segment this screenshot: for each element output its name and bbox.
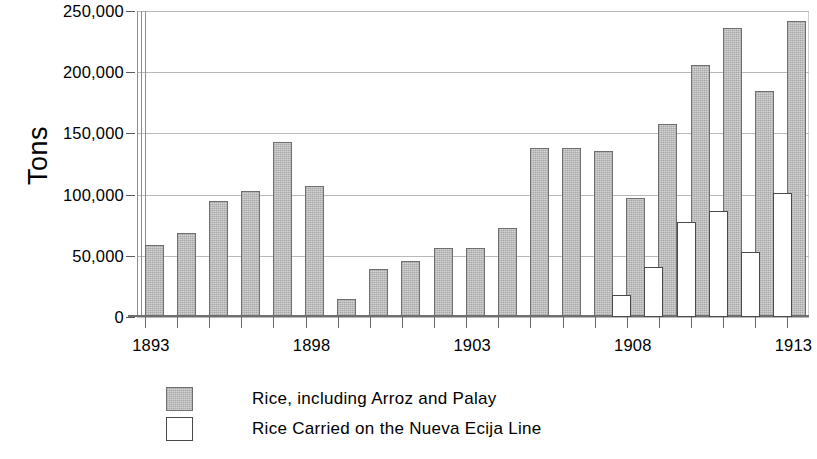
bar-rice-total	[401, 261, 420, 317]
bar-rice-total	[241, 191, 260, 317]
y-axis-tick-label: 200,000	[28, 64, 124, 80]
legend-swatch-gray-icon	[166, 387, 193, 411]
y-axis-tick-mark	[126, 133, 135, 134]
x-axis-tick-mark	[241, 317, 242, 328]
bar-rice-total	[434, 248, 453, 317]
x-axis-tick-label: 1908	[598, 336, 668, 355]
bar-rice-total	[562, 148, 581, 317]
y-axis-tick-labels: 050,000100,000150,000200,000250,000	[28, 0, 124, 330]
x-axis-tick-label: 1898	[277, 336, 347, 355]
y-axis-tick-mark	[126, 11, 135, 12]
y-axis-tick-mark	[126, 317, 135, 318]
x-axis-tick-mark	[370, 317, 371, 328]
x-axis-tick-label: 1893	[116, 336, 186, 355]
legend-item-nueva-ecija: Rice Carried on the Nueva Ecija Line	[166, 414, 726, 444]
x-axis-tick-mark	[530, 317, 531, 328]
chart-legend: Rice, including Arroz and Palay Rice Car…	[166, 384, 726, 444]
x-axis-tick-mark	[177, 317, 178, 328]
x-axis-tick-mark	[595, 317, 596, 328]
y-axis-tick-label: 50,000	[28, 248, 124, 264]
bar-nueva-ecija-line	[677, 222, 696, 317]
legend-swatch-white-icon	[166, 417, 193, 441]
y-axis-tick-label: 150,000	[28, 125, 124, 141]
x-axis-tick-mark	[563, 317, 564, 328]
x-axis-tick-mark	[787, 317, 788, 328]
bar-rice-total	[498, 228, 517, 317]
bars-layer	[137, 11, 809, 317]
bar-chart: Tons 050,000100,000150,000200,000250,000…	[0, 0, 817, 459]
x-axis-tick-mark	[434, 317, 435, 328]
legend-label-nueva-ecija: Rice Carried on the Nueva Ecija Line	[252, 419, 542, 439]
x-axis-tick-mark	[498, 317, 499, 328]
x-axis-tick-marks	[137, 317, 817, 329]
plot-area	[137, 11, 809, 317]
y-axis-tick-mark	[126, 256, 135, 257]
x-axis-tick-mark	[145, 317, 146, 328]
x-axis-tick-mark	[306, 317, 307, 328]
bar-rice-total	[369, 269, 388, 317]
x-axis-tick-mark	[402, 317, 403, 328]
x-axis-tick-label: 1903	[437, 336, 507, 355]
bar-rice-total	[145, 245, 164, 317]
bar-nueva-ecija-line	[644, 267, 663, 317]
y-axis-tick-label: 250,000	[28, 3, 124, 19]
x-axis-tick-label: 1913	[758, 336, 817, 355]
bar-nueva-ecija-line	[709, 211, 728, 317]
x-axis-tick-labels: 18931898190319081913	[0, 336, 817, 360]
bar-rice-total	[305, 186, 324, 317]
legend-label-rice-total: Rice, including Arroz and Palay	[252, 389, 497, 409]
bar-nueva-ecija-line	[741, 252, 760, 317]
bar-rice-total	[273, 142, 292, 317]
bar-rice-total	[530, 148, 549, 317]
x-axis-tick-mark	[627, 317, 628, 328]
bar-rice-total	[594, 151, 613, 317]
x-axis-tick-mark	[659, 317, 660, 328]
x-axis-tick-mark	[691, 317, 692, 328]
y-axis-tick-label: 100,000	[28, 187, 124, 203]
legend-item-rice-total: Rice, including Arroz and Palay	[166, 384, 726, 414]
bar-rice-total	[177, 233, 196, 317]
x-axis-tick-mark	[209, 317, 210, 328]
y-axis-tick-label: 0	[28, 309, 124, 325]
bar-rice-total	[209, 201, 228, 317]
y-axis-tick-mark	[126, 195, 135, 196]
x-axis-tick-mark	[723, 317, 724, 328]
bar-nueva-ecija-line	[773, 193, 792, 317]
x-axis-tick-mark	[338, 317, 339, 328]
bar-rice-total	[466, 248, 485, 317]
bar-nueva-ecija-line	[612, 295, 631, 317]
x-axis-tick-mark	[273, 317, 274, 328]
x-axis-tick-mark	[466, 317, 467, 328]
y-axis-tick-mark	[126, 72, 135, 73]
x-axis-tick-mark	[755, 317, 756, 328]
